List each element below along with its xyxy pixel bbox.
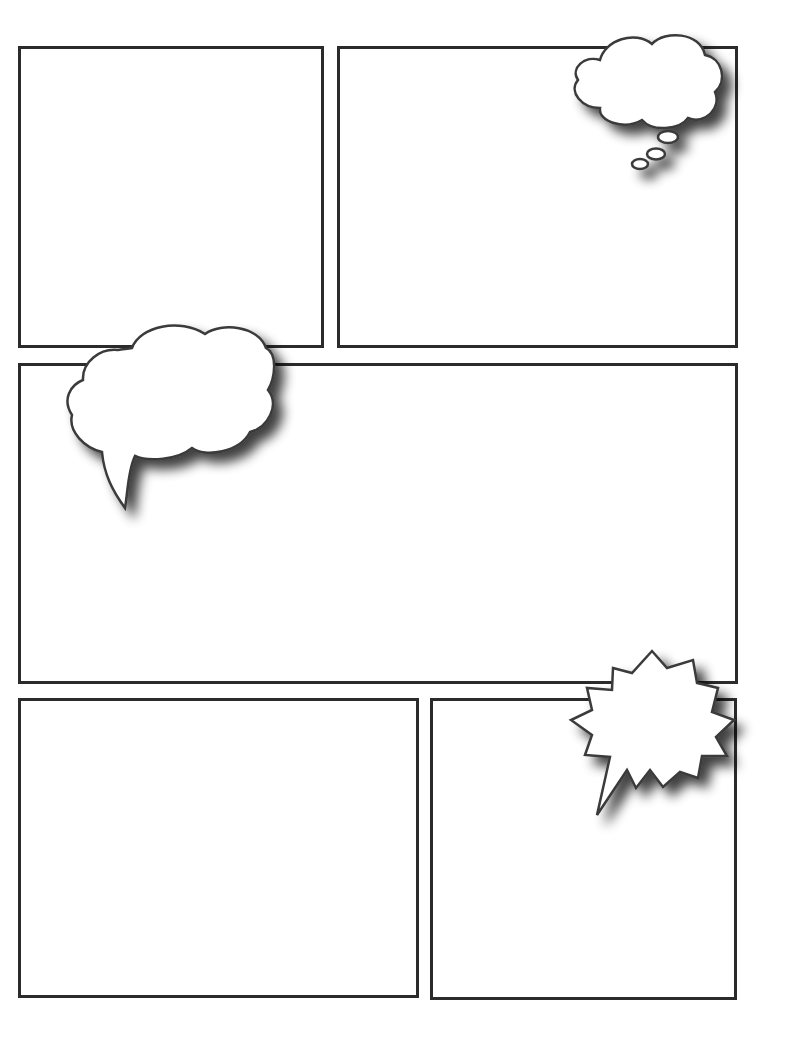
comic-panel-top-left (18, 46, 324, 348)
comic-panel-bottom-left (18, 698, 419, 998)
comic-panel-middle-wide (18, 363, 738, 684)
comic-panel-bottom-right (430, 698, 737, 1000)
comic-panel-top-right (337, 46, 738, 348)
